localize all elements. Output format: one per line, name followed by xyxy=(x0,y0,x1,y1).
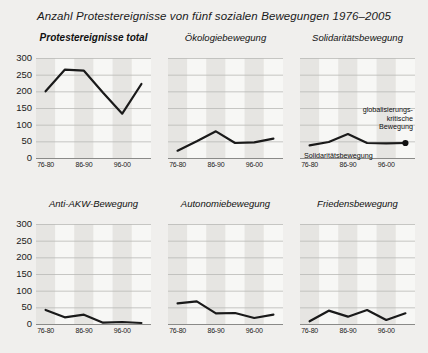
y-axis-tick-label: 100 xyxy=(4,120,32,130)
x-axis-tick-label: 96-00 xyxy=(366,327,406,334)
y-axis-tick-label: 100 xyxy=(4,286,32,296)
y-axis-tick-label: 150 xyxy=(4,269,32,279)
x-axis-tick-label: 96-00 xyxy=(234,327,274,334)
y-axis-tick-label: 300 xyxy=(4,219,32,229)
y-axis-tick-label: 200 xyxy=(4,252,32,262)
panel-title: Autonomiebewegung xyxy=(168,198,283,209)
chart-panel: Anti-AKW-Bewegung76-8086-9096-0030025020… xyxy=(36,198,151,338)
panel-grid: Protestereignisse total76-8086-9096-0030… xyxy=(0,30,428,350)
y-axis-tick-label: 200 xyxy=(4,86,32,96)
chart-panel: Ökologiebewegung76-8086-9096-00 xyxy=(168,32,283,172)
x-axis-tick-label: 76-80 xyxy=(290,161,330,168)
x-axis-tick-label: 76-80 xyxy=(158,327,198,334)
y-axis-tick-label: 250 xyxy=(4,236,32,246)
plot-area xyxy=(300,224,415,324)
annotation-line-3: Bewegung xyxy=(363,123,413,131)
annotation-globalisierungskritische-bewegung: globalisierungs-kritischeBewegung xyxy=(363,106,413,131)
plot-area xyxy=(168,224,283,324)
plot-area xyxy=(168,58,283,158)
x-axis-tick-label: 86-90 xyxy=(328,161,368,168)
panel-title: Anti-AKW-Bewegung xyxy=(36,198,151,209)
chart-panel: Solidaritätsbewegung76-8086-9096-00globa… xyxy=(300,32,415,172)
panel-title: Solidaritätsbewegung xyxy=(300,32,415,43)
x-axis-tick-label: 96-00 xyxy=(234,161,274,168)
y-axis-tick-label: 0 xyxy=(4,319,32,329)
chart-panel: Friedensbewegung76-8086-9096-00 xyxy=(300,198,415,338)
x-axis-tick-label: 96-00 xyxy=(102,327,142,334)
x-axis-tick-label: 86-90 xyxy=(328,327,368,334)
panel-title: Ökologiebewegung xyxy=(168,32,283,43)
x-axis-tick-label: 86-90 xyxy=(196,327,236,334)
plot-area xyxy=(36,224,151,324)
annotation-solidaritaetsbewegung: Solidaritätsbewegung xyxy=(304,152,373,160)
page-title: Anzahl Protestereignisse von fünf sozial… xyxy=(0,10,428,22)
y-axis-tick-label: 250 xyxy=(4,70,32,80)
chart-page: Anzahl Protestereignisse von fünf sozial… xyxy=(0,0,428,353)
panel-title: Protestereignisse total xyxy=(36,32,151,43)
x-axis-tick-label: 86-90 xyxy=(196,161,236,168)
x-axis-tick-label: 76-80 xyxy=(158,161,198,168)
y-axis-tick-label: 50 xyxy=(4,302,32,312)
x-axis-tick-label: 96-00 xyxy=(102,161,142,168)
chart-panel: Protestereignisse total76-8086-9096-0030… xyxy=(36,32,151,172)
y-axis-tick-label: 150 xyxy=(4,103,32,113)
plot-area xyxy=(36,58,151,158)
x-axis-tick-label: 86-90 xyxy=(64,327,104,334)
panel-title: Friedensbewegung xyxy=(300,198,415,209)
x-axis-tick-label: 96-00 xyxy=(366,161,406,168)
x-axis-tick-label: 86-90 xyxy=(64,161,104,168)
x-axis-tick-label: 76-80 xyxy=(290,327,330,334)
y-axis-tick-label: 0 xyxy=(4,153,32,163)
y-axis-tick-label: 50 xyxy=(4,136,32,146)
y-axis-tick-label: 300 xyxy=(4,53,32,63)
chart-panel: Autonomiebewegung76-8086-9096-00 xyxy=(168,198,283,338)
